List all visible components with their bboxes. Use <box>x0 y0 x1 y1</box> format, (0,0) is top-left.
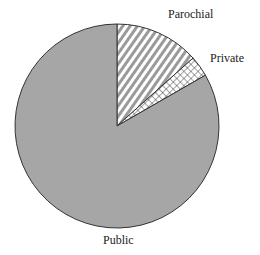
pie-chart: Parochial Private Public <box>0 0 260 255</box>
label-parochial: Parochial <box>168 7 214 21</box>
label-private: Private <box>210 51 244 65</box>
pie-slices <box>15 24 219 228</box>
label-public: Public <box>103 233 134 247</box>
